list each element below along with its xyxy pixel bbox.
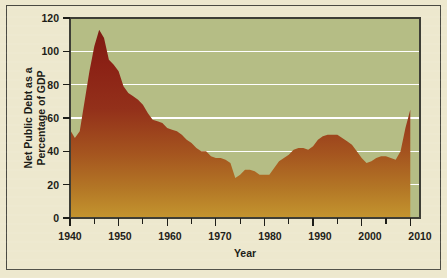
x-tick-label: 1980 [258, 230, 282, 242]
y-tick-label: 0 [53, 212, 59, 224]
x-tick-label: 1970 [208, 230, 232, 242]
y-tick-label: 20 [47, 179, 59, 191]
y-axis-title-line2: Percentage of GDP [35, 70, 47, 165]
y-axis-title: Net Public Debt as a Percentage of GDP [22, 67, 47, 168]
y-tick-label: 60 [47, 112, 59, 124]
y-tick-label: 40 [47, 145, 59, 157]
x-tick-label: 1990 [308, 230, 332, 242]
y-tick-label: 100 [41, 45, 59, 57]
x-axis-tick-labels: 1940 1950 1960 1970 1980 1990 2000 2010 [58, 230, 432, 242]
x-axis-minor-ticks [94, 218, 386, 224]
x-tick-label: 1940 [58, 230, 82, 242]
x-tick-label: 1950 [108, 230, 132, 242]
area-chart: 120 100 80 60 40 20 0 1940 1950 1960 197… [0, 0, 447, 278]
y-axis-title-line1: Net Public Debt as a [22, 67, 34, 168]
x-tick-label: 2000 [358, 230, 382, 242]
x-tick-label: 1960 [158, 230, 182, 242]
y-axis-ticks [63, 18, 70, 218]
chart-figure: 120 100 80 60 40 20 0 1940 1950 1960 197… [0, 0, 447, 278]
y-tick-label: 80 [47, 79, 59, 91]
x-tick-label: 2010 [408, 230, 432, 242]
y-tick-label: 120 [41, 12, 59, 24]
x-axis-title: Year [234, 247, 256, 259]
